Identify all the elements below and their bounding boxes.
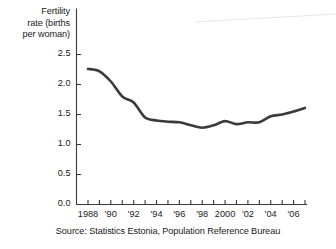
y-tick-label: 2.5 bbox=[45, 48, 71, 58]
fertility-rate-chart-figure: Fertility rate (births per woman) 0.00.5… bbox=[0, 0, 336, 249]
x-tick-label: '06 bbox=[274, 209, 314, 219]
y-tick-label: 0.0 bbox=[45, 198, 71, 208]
y-axis-title-line-2: rate (births bbox=[8, 18, 70, 30]
y-tick-label: 1.0 bbox=[45, 138, 71, 148]
y-axis-title: Fertility rate (births per woman) bbox=[8, 6, 70, 41]
y-tick-label: 0.5 bbox=[45, 168, 71, 178]
scan-artifact-line bbox=[196, 14, 336, 22]
y-tick-label: 1.5 bbox=[45, 108, 71, 118]
y-axis-title-line-3: per woman) bbox=[8, 29, 70, 41]
fertility-rate-line bbox=[88, 69, 305, 128]
source-caption: Source: Statistics Estonia, Population R… bbox=[0, 226, 336, 236]
y-axis-title-line-1: Fertility bbox=[8, 6, 70, 18]
y-tick-label: 2.0 bbox=[45, 78, 71, 88]
